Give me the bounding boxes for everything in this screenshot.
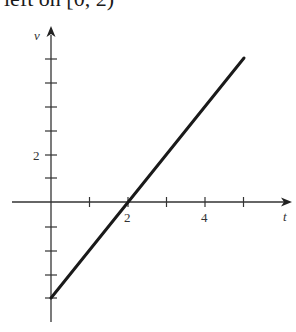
v-tick-label-2: 2 xyxy=(33,148,40,163)
t-tick-label-4: 4 xyxy=(201,210,208,225)
t-axis-label: t xyxy=(283,209,287,224)
t-tick-label-2: 2 xyxy=(124,210,131,225)
v-axis-label: v xyxy=(34,28,40,43)
velocity-graph: v t 2 4 2 xyxy=(0,0,296,332)
velocity-line xyxy=(51,58,244,298)
